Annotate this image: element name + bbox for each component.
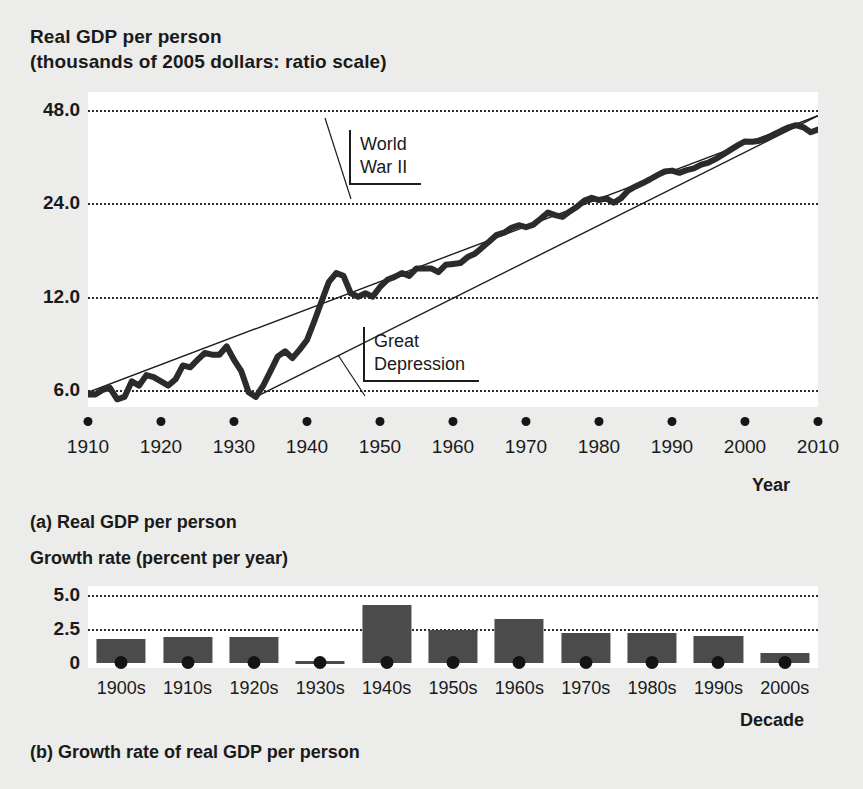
- annotation-leader-line: [338, 355, 365, 396]
- panel-b-x-tick-label: 1990s: [694, 678, 743, 699]
- panel-b-x-tick-label: 1970s: [561, 678, 610, 699]
- panel-b-x-axis-name: Decade: [740, 710, 804, 731]
- panel-a-x-tick-label: 1960: [432, 436, 474, 458]
- panel-a-x-tick-label: 1990: [651, 436, 693, 458]
- panel-a-x-tick-dot: [157, 417, 166, 426]
- panel-a-y-tick-label: 12.0: [8, 286, 80, 308]
- panel-b-x-tick-dot: [646, 656, 659, 669]
- panel-a-title: Real GDP per person (thousands of 2005 d…: [30, 24, 387, 74]
- annotation-world-war-2-line1: World: [360, 133, 407, 156]
- annotation-great-depression-line1: Great: [374, 330, 465, 353]
- panel-b-x-tick-label: 1910s: [163, 678, 212, 699]
- panel-b-x-tick-label: 1980s: [628, 678, 677, 699]
- panel-b-x-tick-label: 1920s: [229, 678, 278, 699]
- panel-a-title-line2: (thousands of 2005 dollars: ratio scale): [30, 49, 387, 74]
- panel-b-title: Growth rate (percent per year): [30, 548, 288, 569]
- panel-b-x-tick-label: 1900s: [97, 678, 146, 699]
- panel-b-y-tick-label: 0: [8, 652, 80, 674]
- panel-a-x-axis-name: Year: [752, 475, 790, 496]
- panel-a-x-tick-dot: [230, 417, 239, 426]
- panel-a-x-tick-label: 1930: [213, 436, 255, 458]
- panel-b-x-tick-label: 1950s: [428, 678, 477, 699]
- panel-a-y-tick-label: 24.0: [8, 192, 80, 214]
- panel-a-x-tick-label: 2010: [797, 436, 839, 458]
- panel-b-x-tick-dot: [314, 656, 327, 669]
- panel-b-gridline: [88, 595, 818, 597]
- panel-b-x-tick-label: 1930s: [296, 678, 345, 699]
- panel-b-x-tick-label: 1960s: [495, 678, 544, 699]
- panel-b-x-tick-dot: [579, 656, 592, 669]
- panel-a-x-tick-label: 2000: [724, 436, 766, 458]
- annotation-world-war-2-line2: War II: [360, 156, 407, 179]
- panel-a-y-tick-label: 48.0: [8, 99, 80, 121]
- panel-a-y-tick-label: 6.0: [8, 379, 80, 401]
- panel-b-y-tick-label: 5.0: [8, 584, 80, 606]
- panel-b-y-tick-label: 2.5: [8, 618, 80, 640]
- growth-rate-bar: [362, 605, 411, 663]
- panel-b-x-tick-dot: [447, 656, 460, 669]
- panel-b-caption: (b) Growth rate of real GDP per person: [30, 742, 360, 763]
- trend-line-post-depression-trend: [256, 116, 818, 397]
- panel-a-caption: (a) Real GDP per person: [30, 512, 237, 533]
- figure-real-gdp-per-person: Real GDP per person (thousands of 2005 d…: [0, 0, 863, 789]
- panel-b-x-tick-dot: [513, 656, 526, 669]
- panel-b-x-tick-dot: [247, 656, 260, 669]
- panel-a-x-tick-label: 1950: [359, 436, 401, 458]
- panel-a-x-tick-dot: [814, 417, 823, 426]
- panel-a-x-tick-label: 1920: [140, 436, 182, 458]
- panel-a-x-tick-dot: [303, 417, 312, 426]
- panel-a-x-tick-label: 1980: [578, 436, 620, 458]
- annotation-great-depression: Great Depression: [363, 327, 479, 382]
- annotation-leader-line: [325, 118, 351, 199]
- annotation-great-depression-line2: Depression: [374, 353, 465, 376]
- panel-b-x-tick-dot: [181, 656, 194, 669]
- panel-b-x-tick-dot: [380, 656, 393, 669]
- panel-a-title-line1: Real GDP per person: [30, 24, 387, 49]
- panel-a-x-tick-label: 1940: [286, 436, 328, 458]
- panel-b-x-tick-dot: [712, 656, 725, 669]
- panel-a-x-tick-dot: [522, 417, 531, 426]
- panel-a-x-tick-dot: [595, 417, 604, 426]
- panel-b-x-tick-label: 1940s: [362, 678, 411, 699]
- panel-b-x-tick-dot: [778, 656, 791, 669]
- panel-a-x-tick-dot: [449, 417, 458, 426]
- panel-b-x-tick-dot: [115, 656, 128, 669]
- panel-a-x-tick-label: 1910: [67, 436, 109, 458]
- panel-a-x-tick-dot: [741, 417, 750, 426]
- panel-a-x-tick-label: 1970: [505, 436, 547, 458]
- panel-a-x-tick-dot: [376, 417, 385, 426]
- annotation-world-war-2: World War II: [349, 130, 421, 185]
- panel-a-x-tick-dot: [668, 417, 677, 426]
- panel-b-x-tick-label: 2000s: [760, 678, 809, 699]
- panel-a-x-tick-dot: [84, 417, 93, 426]
